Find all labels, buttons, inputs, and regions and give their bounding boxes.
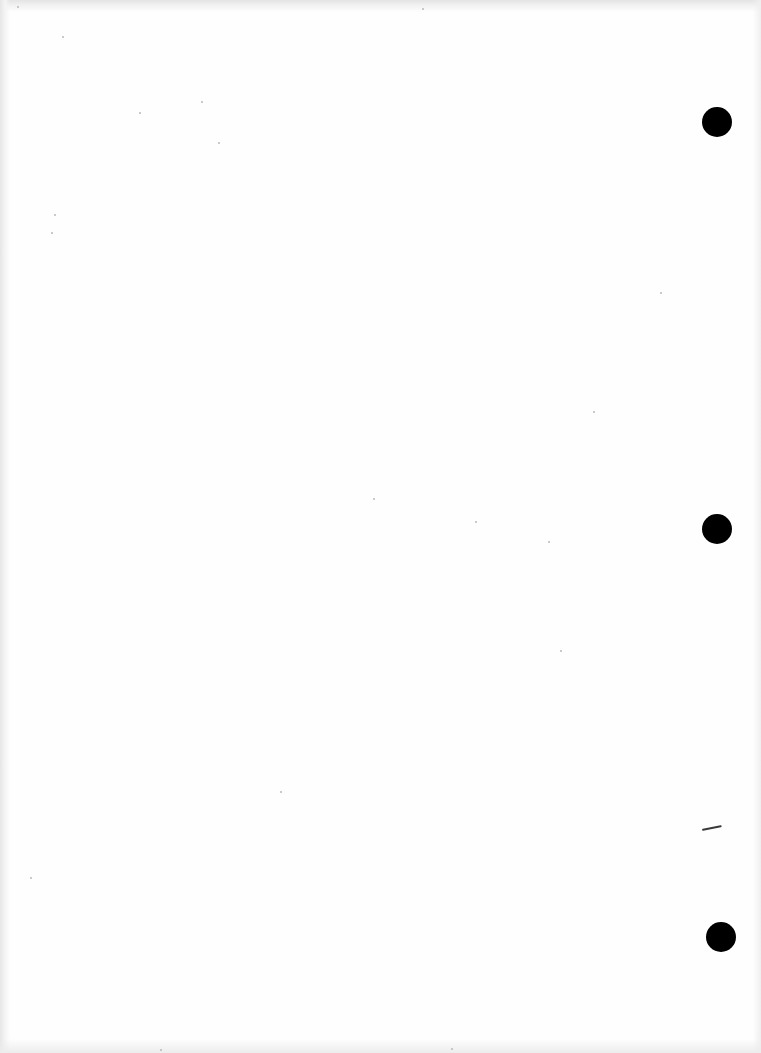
- pen-mark: [702, 825, 722, 830]
- scan-speck: [373, 498, 375, 500]
- scan-speck: [139, 112, 141, 114]
- scan-speck: [280, 791, 282, 793]
- scan-speck: [422, 8, 424, 10]
- scan-speck: [160, 1049, 162, 1051]
- scanned-page: [0, 0, 761, 1053]
- scan-speck: [218, 142, 220, 144]
- scan-speck: [475, 521, 477, 523]
- scan-speck: [548, 541, 550, 543]
- scan-shadow-bottom: [0, 1039, 761, 1053]
- scan-speck: [660, 292, 662, 294]
- scan-speck: [51, 232, 53, 234]
- punch-hole-middle: [702, 514, 732, 544]
- scan-shadow-right: [753, 0, 761, 1053]
- punch-hole-top: [702, 107, 732, 137]
- scan-speck: [54, 214, 56, 216]
- scan-shadow-top: [0, 0, 761, 12]
- scan-shadow-left: [0, 0, 10, 1053]
- scan-speck: [560, 650, 562, 652]
- scan-speck: [62, 36, 64, 38]
- scan-speck: [593, 411, 595, 413]
- scan-speck: [17, 6, 19, 8]
- scan-speck: [201, 101, 203, 103]
- scan-speck: [30, 877, 32, 879]
- punch-hole-bottom: [706, 922, 736, 952]
- scan-speck: [451, 1048, 453, 1050]
